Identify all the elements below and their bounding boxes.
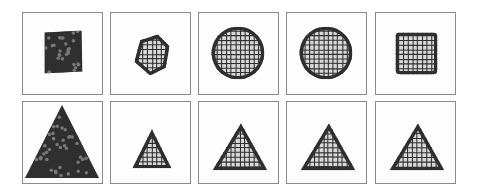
mesh-panel-r2-c1 xyxy=(22,101,103,184)
mesh-panel-r2-c2 xyxy=(110,101,191,184)
mesh-panel-r2-c4 xyxy=(286,101,367,184)
mesh-panel-r1-c1 xyxy=(22,12,103,95)
mesh-panel-r1-c5 xyxy=(375,12,456,95)
mesh-panel-r1-c2 xyxy=(110,12,191,95)
mesh-panel-r1-c3 xyxy=(198,12,279,95)
mesh-panel-r2-c3 xyxy=(198,101,279,184)
mesh-panel-r1-c4 xyxy=(286,12,367,95)
mesh-panel-r2-c5 xyxy=(375,101,456,184)
